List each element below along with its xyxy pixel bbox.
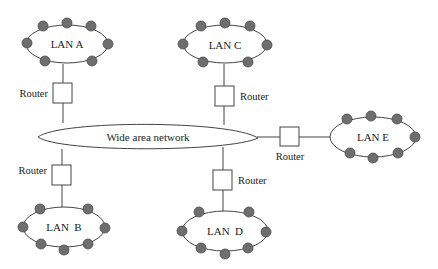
- host-node-icon: [177, 226, 187, 236]
- host-node-icon: [368, 153, 378, 163]
- lan-b-label: LAN B: [46, 221, 81, 233]
- host-node-icon: [262, 40, 272, 50]
- router-d-label: Router: [238, 175, 267, 186]
- router-e-label: Router: [276, 151, 305, 162]
- host-node-icon: [103, 39, 113, 49]
- host-node-icon: [83, 239, 93, 249]
- host-node-icon: [342, 114, 352, 124]
- host-node-icon: [261, 227, 271, 237]
- host-node-icon: [100, 223, 110, 233]
- router-c-label: Router: [240, 91, 269, 102]
- host-node-icon: [393, 148, 403, 158]
- host-node-icon: [410, 132, 420, 142]
- host-node-icon: [83, 204, 93, 214]
- lan-a-label: LAN A: [51, 38, 84, 50]
- router-a: Router: [19, 83, 72, 103]
- host-node-icon: [40, 56, 50, 66]
- host-node-icon: [36, 239, 46, 249]
- host-node-icon: [220, 18, 230, 28]
- host-node-icon: [345, 148, 355, 158]
- host-node-icon: [244, 207, 254, 217]
- wide-area-network: Wide area network: [38, 124, 258, 148]
- host-node-icon: [196, 243, 206, 253]
- router-b-label: Router: [18, 165, 47, 176]
- host-node-icon: [243, 57, 253, 67]
- host-node-icon: [198, 57, 208, 67]
- host-node-icon: [392, 114, 402, 124]
- router-icon: [215, 86, 234, 106]
- router-e: Router: [276, 127, 305, 162]
- lan-b: LAN B: [18, 204, 110, 255]
- host-node-icon: [38, 21, 48, 31]
- host-node-icon: [245, 21, 255, 31]
- lan-d-label: LAN D: [207, 225, 243, 237]
- host-node-icon: [178, 39, 188, 49]
- host-node-icon: [62, 18, 72, 28]
- lan-d: LAN D: [177, 207, 271, 259]
- host-node-icon: [366, 111, 376, 121]
- router-d: Router: [213, 170, 267, 190]
- network-diagram: Wide area network LAN A LAN C LAN B: [0, 0, 438, 269]
- router-icon: [53, 83, 72, 103]
- host-node-icon: [220, 249, 230, 259]
- host-node-icon: [243, 243, 253, 253]
- host-node-icon: [87, 56, 97, 66]
- router-b: Router: [18, 165, 71, 185]
- lan-c: LAN C: [178, 18, 272, 67]
- router-icon: [280, 127, 299, 146]
- host-node-icon: [22, 38, 32, 48]
- lan-e: LAN E: [330, 111, 420, 163]
- host-node-icon: [35, 204, 45, 214]
- lan-e-label: LAN E: [357, 131, 389, 143]
- wan-label: Wide area network: [106, 131, 190, 143]
- router-icon: [213, 170, 232, 190]
- lan-c-label: LAN C: [209, 39, 242, 51]
- host-node-icon: [18, 222, 28, 232]
- host-node-icon: [194, 207, 204, 217]
- router-c: Router: [215, 86, 269, 106]
- host-node-icon: [59, 245, 69, 255]
- host-node-icon: [86, 21, 96, 31]
- router-a-label: Router: [19, 88, 48, 99]
- lan-a: LAN A: [22, 18, 113, 66]
- router-icon: [52, 165, 71, 185]
- host-node-icon: [196, 21, 206, 31]
